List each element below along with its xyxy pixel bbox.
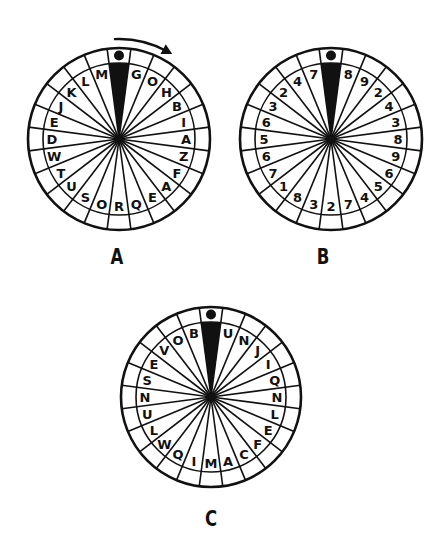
wheel-symbol: N <box>272 390 283 405</box>
wheel-symbol: F <box>253 437 262 452</box>
wheel-b: 89243896547238176563247 <box>240 48 422 230</box>
wheel-symbol: M <box>205 456 218 471</box>
wheel-symbol: J <box>58 99 64 114</box>
wheel-symbol: V <box>159 343 169 358</box>
wheel-symbol: 7 <box>268 166 277 181</box>
wheel-symbol: I <box>266 357 271 372</box>
wheel-symbol: A <box>181 132 191 147</box>
wheel-symbol: O <box>147 74 158 89</box>
wheel-symbol: 2 <box>374 85 383 100</box>
wheel-symbol: Q <box>172 447 183 462</box>
dot-marker-icon <box>114 51 124 61</box>
wheel-symbol: G <box>131 67 142 82</box>
wheel-c: UNJIQNLEFCAMIQWLUNSEVOB <box>121 307 301 487</box>
wheel-symbol: 8 <box>344 67 353 82</box>
wheel-symbol: Q <box>269 373 280 388</box>
wheel-label-b: B <box>317 244 330 269</box>
wheel-symbol: F <box>173 166 182 181</box>
wheel-symbol: U <box>142 407 153 422</box>
wheel-symbol: E <box>148 190 157 205</box>
wheels-diagram: GOHBIAZFAEQROSUTWDEJKLM89243896547238176… <box>0 0 436 554</box>
wheel-symbol: A <box>161 179 171 194</box>
wheel-symbol: K <box>67 85 78 100</box>
wheel-symbol: W <box>47 149 61 164</box>
wheel-symbol: T <box>57 166 66 181</box>
wheel-symbol: 9 <box>360 74 369 89</box>
wheel-symbol: E <box>149 357 158 372</box>
wheel-symbol: 3 <box>391 115 400 130</box>
wheel-symbol: Q <box>131 197 142 212</box>
wheel-symbol: 6 <box>385 166 394 181</box>
wheel-label-c: C <box>205 506 217 531</box>
wheel-symbol: 2 <box>326 199 335 214</box>
wheel-symbol: 4 <box>385 99 394 114</box>
wheel-symbol: E <box>50 115 59 130</box>
wheel-symbol: S <box>81 190 90 205</box>
wheel-symbol: 1 <box>279 179 288 194</box>
hub <box>207 393 216 402</box>
wheel-symbol: N <box>140 390 151 405</box>
wheel-symbol: 8 <box>393 132 402 147</box>
wheel-symbol: 6 <box>262 115 271 130</box>
wheel-symbol: 7 <box>309 67 318 82</box>
hub <box>115 135 124 144</box>
wheel-symbol: 6 <box>262 149 271 164</box>
wheel-symbol: B <box>189 326 199 341</box>
wheel-symbol: O <box>96 197 107 212</box>
wheel-symbol: O <box>172 333 183 348</box>
wheel-symbol: D <box>47 132 58 147</box>
wheel-label-a: A <box>111 244 124 269</box>
wheel-symbol: 8 <box>293 190 302 205</box>
wheel-symbol: 5 <box>259 132 268 147</box>
dot-marker-icon <box>326 51 336 61</box>
wheel-symbol: H <box>161 85 172 100</box>
wheel-symbol: S <box>143 373 152 388</box>
hub <box>327 135 336 144</box>
wheel-symbol: L <box>150 423 158 438</box>
wheel-symbol: W <box>157 437 171 452</box>
wheel-symbol: 3 <box>268 99 277 114</box>
wheel-symbol: Z <box>179 149 188 164</box>
wheel-symbol: 5 <box>374 179 383 194</box>
wheel-symbol: C <box>239 447 249 462</box>
wheel-symbol: 2 <box>279 85 288 100</box>
wheel-symbol: I <box>181 115 186 130</box>
wheel-symbol: U <box>66 179 77 194</box>
wheel-symbol: I <box>191 454 196 469</box>
wheel-symbol: 4 <box>360 190 369 205</box>
dot-marker-icon <box>206 310 216 320</box>
wheel-a: GOHBIAZFAEQROSUTWDEJKLM <box>28 48 210 230</box>
wheel-symbol: M <box>95 67 108 82</box>
wheel-symbol: L <box>271 407 279 422</box>
wheel-symbol: U <box>223 326 234 341</box>
wheel-symbol: N <box>239 333 250 348</box>
wheel-symbol: B <box>172 99 182 114</box>
wheel-symbol: J <box>254 343 260 358</box>
wheel-symbol: R <box>114 199 124 214</box>
wheel-symbol: E <box>264 423 273 438</box>
wheel-symbol: L <box>81 74 89 89</box>
wheel-symbol: 9 <box>391 149 400 164</box>
wheel-symbol: 7 <box>344 197 353 212</box>
wheel-symbol: 4 <box>293 74 302 89</box>
wheel-symbol: 3 <box>309 197 318 212</box>
puzzle-stage: GOHBIAZFAEQROSUTWDEJKLM89243896547238176… <box>0 0 436 554</box>
wheel-symbol: A <box>223 454 233 469</box>
